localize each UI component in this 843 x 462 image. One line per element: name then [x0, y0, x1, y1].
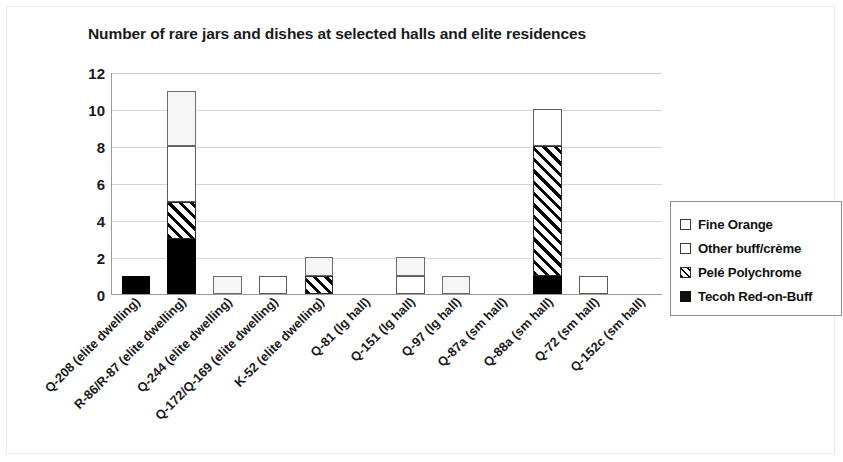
chart-container: Number of rare jars and dishes at select…: [6, 6, 835, 454]
legend-item[interactable]: Fine Orange: [680, 217, 835, 232]
y-axis-tick-0: 0: [97, 288, 105, 303]
tecoh-red-swatch: [680, 291, 691, 302]
bar-segment[interactable]: [167, 202, 195, 239]
x-axis-label-text: K-52 (elite dwelling): [231, 294, 327, 390]
legend-item-label: Fine Orange: [698, 217, 773, 232]
legend-item-label: Pelé Polychrome: [698, 265, 801, 280]
legend-item[interactable]: Tecoh Red-on-Buff: [680, 289, 835, 304]
y-axis-tick-12: 12: [88, 66, 105, 81]
legend-item[interactable]: Other buff/crème: [680, 241, 835, 256]
y-axis-tick-labels: 121086420: [67, 73, 105, 295]
chart-legend: Fine OrangeOther buff/crèmePelé Polychro…: [670, 201, 842, 316]
legend-item-label: Other buff/crème: [698, 241, 801, 256]
bar-segment[interactable]: [167, 91, 195, 147]
bar-group[interactable]: [113, 73, 159, 294]
y-axis-tick-8: 8: [97, 140, 105, 155]
y-axis-tick-10: 10: [88, 103, 105, 118]
y-axis-tick-2: 2: [97, 251, 105, 266]
legend-item-label: Tecoh Red-on-Buff: [698, 289, 812, 304]
other-buff-swatch: [680, 243, 691, 254]
legend-item[interactable]: Pelé Polychrome: [680, 265, 835, 280]
bar-segment[interactable]: [533, 109, 561, 146]
y-axis-tick-4: 4: [97, 214, 105, 229]
bar-segment[interactable]: [167, 146, 195, 202]
pele-polychrome-swatch: [680, 267, 691, 278]
chart-title: Number of rare jars and dishes at select…: [7, 25, 667, 43]
fine-orange-swatch: [680, 219, 691, 230]
y-axis-tick-6: 6: [97, 177, 105, 192]
